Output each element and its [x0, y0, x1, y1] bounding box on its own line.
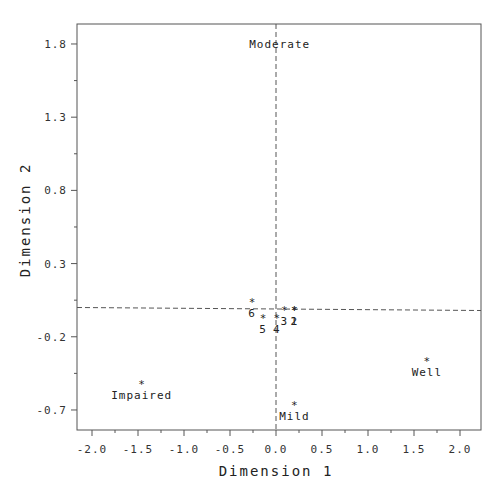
data-point: *Well	[412, 355, 443, 379]
y-tick-label: -0.2	[37, 331, 68, 344]
point-label: 6	[248, 307, 256, 320]
x-tick-label: -0.5	[215, 443, 246, 456]
x-tick-label: -2.0	[77, 443, 108, 456]
x-tick-label: -1.5	[123, 443, 154, 456]
point-label: Mild	[279, 410, 310, 423]
data-point: *6	[248, 296, 256, 320]
horizontal-reference-line	[77, 308, 481, 311]
y-axis-ticks: 1.81.30.80.3-0.2-0.7	[37, 38, 78, 417]
data-points: Moderate*Impaired*Mild*Well*6*5*4*3*1*2	[111, 38, 442, 423]
y-tick-label: 0.8	[44, 184, 67, 197]
data-point: *2	[291, 304, 299, 328]
point-label: 5	[259, 323, 267, 336]
data-point: Moderate	[249, 38, 310, 51]
point-label: 2	[291, 315, 299, 328]
x-axis-ticks: -2.0-1.5-1.0-0.50.00.51.01.52.0	[77, 430, 472, 456]
point-label: Well	[412, 366, 443, 379]
x-tick-label: 0.0	[265, 443, 288, 456]
x-tick-label: -1.0	[169, 443, 200, 456]
y-tick-label: 1.3	[44, 111, 67, 124]
point-label: Moderate	[249, 38, 310, 51]
x-tick-label: 2.0	[449, 443, 472, 456]
data-point: *Mild	[279, 399, 310, 423]
x-axis-title: Dimension 1	[219, 463, 334, 479]
y-tick-label: 1.8	[44, 38, 67, 51]
x-tick-label: 0.5	[311, 443, 334, 456]
y-axis-title: Dimension 2	[17, 163, 33, 278]
data-point: *3	[280, 304, 288, 328]
point-label: Impaired	[111, 389, 172, 402]
x-tick-label: 1.0	[357, 443, 380, 456]
scatter-chart: -2.0-1.5-1.0-0.50.00.51.01.52.0 1.81.30.…	[0, 0, 502, 497]
x-tick-label: 1.5	[403, 443, 426, 456]
data-point: *Impaired	[111, 378, 172, 402]
data-point: *5	[259, 312, 267, 336]
y-tick-label: -0.7	[37, 404, 68, 417]
point-label: 3	[280, 315, 288, 328]
y-tick-label: 0.3	[44, 258, 67, 271]
